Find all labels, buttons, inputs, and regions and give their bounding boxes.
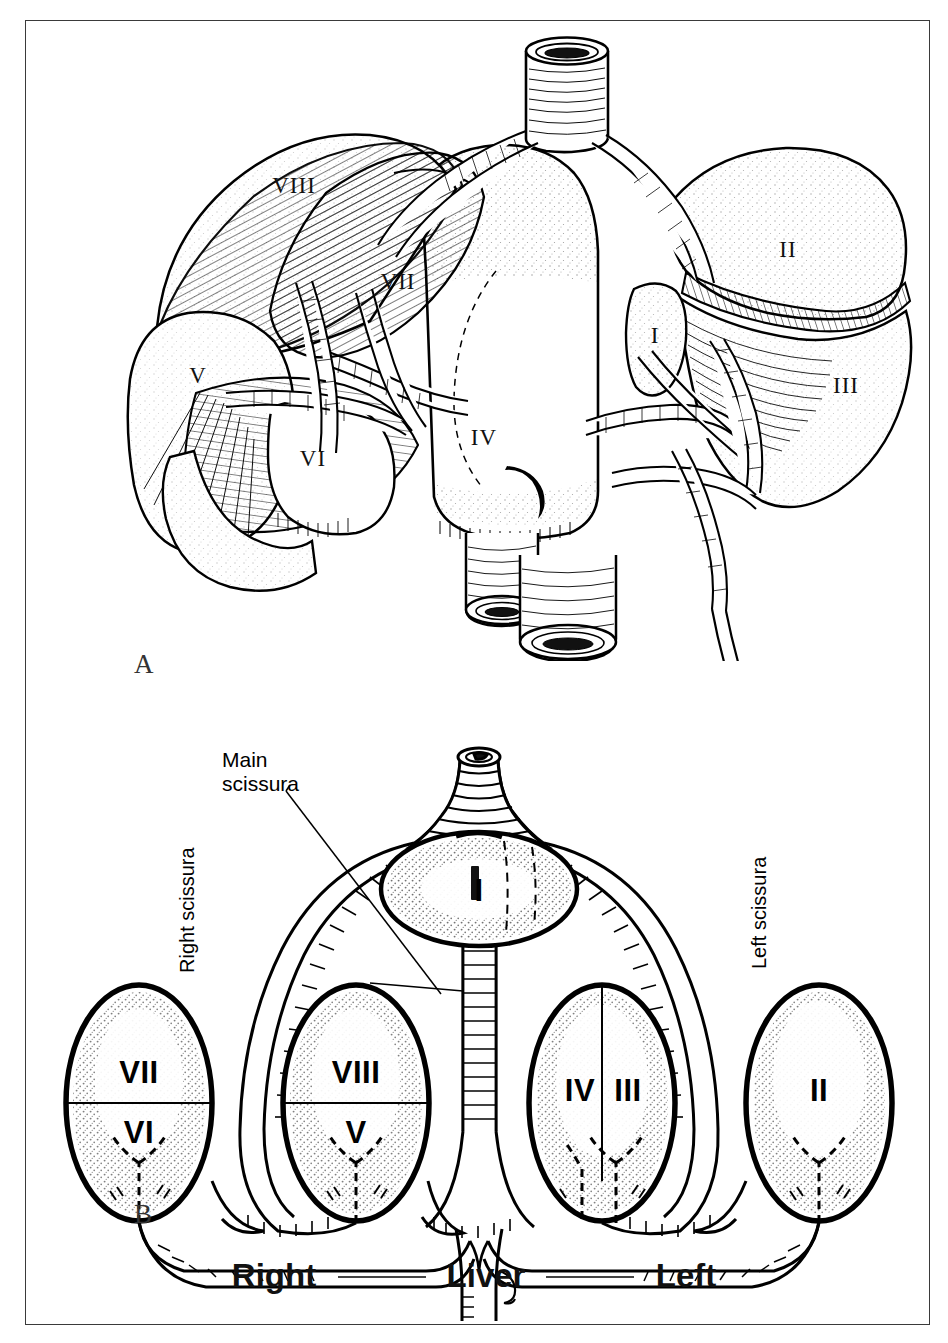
main-scissura-label-line1: Main: [222, 748, 268, 771]
figure-frame: VIII VII V VI IV I II III A: [25, 20, 930, 1325]
segment-label-b-II: II: [810, 1073, 828, 1108]
panel-b-schematic: Main scissura Right scissura Left scissu…: [26, 711, 931, 1326]
segment-label-VII: VII: [381, 269, 416, 294]
segment-label-I: I: [651, 323, 660, 348]
inferior-vena-cava-stump: [526, 38, 608, 153]
segment-label-VI: VI: [300, 446, 326, 471]
segment-label-b-IV: IV: [565, 1073, 595, 1108]
oval-VII-VI: [66, 985, 212, 1223]
segment-label-V: V: [189, 363, 207, 388]
segment-label-III: III: [833, 373, 859, 398]
segment-label-b-VI: VI: [124, 1115, 154, 1150]
segment-label-b-V: V: [345, 1115, 366, 1150]
panel-b-letter: B: [134, 1199, 153, 1230]
oval-VIII-V: [283, 985, 429, 1223]
segment-label-b-I: I: [474, 873, 483, 908]
hepatic-artery-stump: [520, 555, 616, 661]
segment-label-b-VIII: VIII: [332, 1055, 381, 1090]
right-scissura-label: Right scissura: [176, 847, 198, 973]
footer-left-label: Left: [656, 1257, 717, 1294]
segment-label-II: II: [779, 237, 796, 262]
segment-label-b-VII: VII: [119, 1055, 158, 1090]
footer-center-label: Liver: [447, 1257, 526, 1294]
footer-right-label: Right: [232, 1257, 316, 1294]
segment-label-IV: IV: [471, 425, 497, 450]
panel-a-illustration: VIII VII V VI IV I II III: [26, 21, 931, 661]
segment-label-VIII: VIII: [272, 173, 316, 198]
segment-label-b-III: III: [614, 1073, 641, 1108]
panel-a-letter: A: [134, 649, 154, 680]
hepatic-artery-branch: [712, 609, 741, 661]
left-scissura-label: Left scissura: [748, 856, 770, 969]
main-scissura-label-line2: scissura: [222, 772, 299, 795]
oval-IV-III: [529, 985, 675, 1223]
